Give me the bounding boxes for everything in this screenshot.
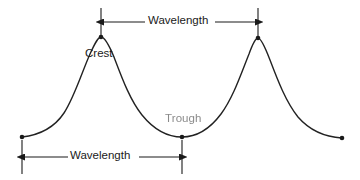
wave-diagram: Wavelength Wavelength Crest Trough	[0, 0, 360, 180]
trough-marker	[180, 135, 185, 140]
wave-diagram-canvas	[0, 0, 360, 180]
crest-1-marker	[99, 35, 104, 40]
wave-start-marker	[20, 135, 25, 140]
wavelength-bottom-label: Wavelength	[70, 150, 130, 162]
crest-label: Crest	[85, 48, 112, 60]
crest-2-marker	[256, 36, 261, 41]
wave-end-marker	[340, 136, 345, 141]
trough-label: Trough	[165, 113, 202, 125]
wavelength-top-label: Wavelength	[148, 15, 208, 27]
